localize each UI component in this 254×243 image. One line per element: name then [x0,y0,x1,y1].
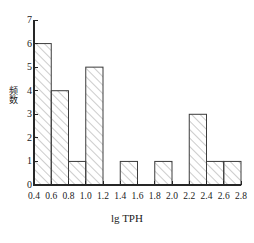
x-tick-label: 2.8 [229,191,253,201]
x-axis-label: lg TPH [0,212,254,224]
histogram-figure: 频数 01234567 0.40.60.81.01.21.41.61.82.02… [0,0,254,243]
x-tick-labels: 0.40.60.81.01.21.41.61.82.02.22.42.62.8 [0,0,254,243]
